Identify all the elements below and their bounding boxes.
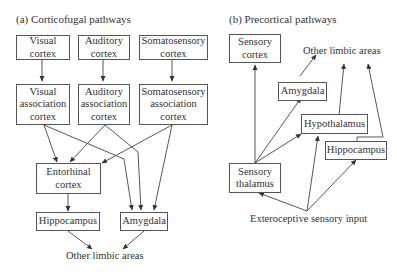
node-label: Hippocampus (327, 144, 385, 157)
node-label: Somatosensory association cortex (141, 86, 205, 124)
node-exteroceptive-input: Exteroceptive sensory input (250, 213, 367, 224)
panel-a-title: (a) Corticofugal pathways (16, 13, 131, 25)
node-amygdala-a: Amygdala (120, 212, 168, 231)
node-label: Amygdala (281, 85, 325, 98)
node-label: Sensory thalamus (236, 166, 274, 191)
node-label: Auditory cortex (85, 35, 123, 60)
node-entorhinal-cortex: Entorhinal cortex (36, 163, 101, 194)
node-label: Hypothalamus (304, 118, 365, 131)
node-label: Somatosensory cortex (141, 35, 205, 60)
node-visual-cortex: Visual cortex (16, 35, 70, 60)
node-other-limbic-b: Other limbic areas (303, 45, 381, 56)
node-label: Visual association cortex (20, 86, 67, 124)
node-label: Visual cortex (30, 35, 57, 60)
node-hippocampus-b: Hippocampus (325, 141, 387, 160)
node-hippocampus-a: Hippocampus (36, 212, 100, 231)
node-label: Sensory cortex (238, 36, 272, 61)
node-hypothalamus: Hypothalamus (301, 114, 368, 134)
node-label: Auditory association cortex (81, 86, 128, 124)
node-somatosensory-cortex: Somatosensory cortex (139, 35, 208, 60)
node-label: Hippocampus (39, 215, 97, 228)
node-sensory-cortex: Sensory cortex (229, 34, 281, 63)
node-visual-association-cortex: Visual association cortex (16, 84, 70, 125)
node-label: Amygdala (122, 215, 166, 228)
node-sensory-thalamus: Sensory thalamus (229, 163, 281, 193)
node-other-limbic-a: Other limbic areas (66, 250, 144, 261)
node-label: Entorhinal cortex (46, 166, 90, 191)
node-amygdala-b: Amygdala (278, 82, 327, 101)
node-auditory-association-cortex: Auditory association cortex (78, 84, 130, 125)
node-somatosensory-association-cortex: Somatosensory association cortex (139, 84, 208, 125)
node-auditory-cortex: Auditory cortex (78, 35, 130, 60)
panel-b-title: (b) Precortical pathways (229, 13, 337, 25)
